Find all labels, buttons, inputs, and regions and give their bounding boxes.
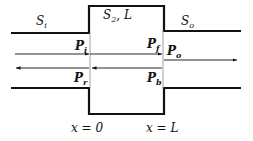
position-xL-label: x = L bbox=[146, 122, 178, 134]
chamber-area-label: S2, L bbox=[103, 9, 132, 24]
backward-power-label: Pb bbox=[147, 72, 162, 86]
incident-power-label: Pi bbox=[75, 40, 87, 54]
forward-power-label: Pf bbox=[147, 38, 159, 52]
reflected-power-label: Pr bbox=[74, 72, 87, 86]
inlet-area-label: Si bbox=[36, 15, 47, 30]
position-x0-label: x = 0 bbox=[71, 122, 103, 134]
outgoing-power-label: Po bbox=[167, 45, 181, 59]
outlet-area-label: So bbox=[181, 15, 194, 30]
